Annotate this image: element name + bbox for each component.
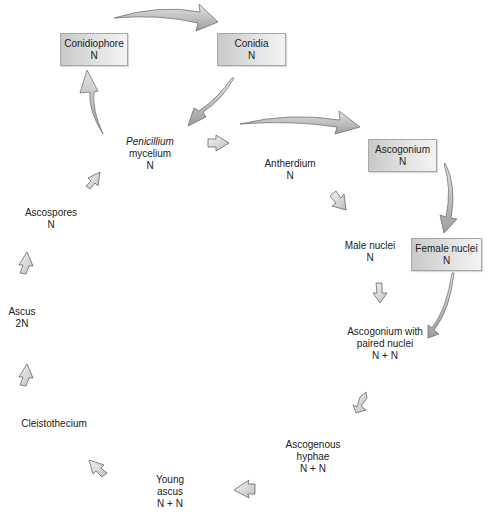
arrow-ascospores-to-mycelium bbox=[86, 172, 100, 189]
node-ploidy: N bbox=[218, 50, 285, 62]
node-ascogonium: Ascogonium N bbox=[368, 139, 437, 172]
arrow-conidia-to-mycelium bbox=[188, 78, 234, 126]
node-female-nuclei: Female nuclei N bbox=[411, 238, 482, 271]
node-ploidy: N bbox=[18, 219, 84, 231]
node-ascogonium-paired-nuclei: Ascogonium with paired nuclei N + N bbox=[340, 326, 430, 362]
node-ploidy: N bbox=[337, 252, 403, 264]
node-name-line2: hyphae bbox=[278, 451, 348, 463]
node-name-line1: Young bbox=[145, 474, 195, 486]
node-name: Antherdium bbox=[255, 158, 325, 170]
node-ascogenous-hyphae: Ascogenous hyphae N + N bbox=[278, 439, 348, 475]
node-ploidy: N + N bbox=[278, 463, 348, 475]
arrow-mycelium-to-conidiophore bbox=[80, 70, 103, 134]
arrow-young-ascus-to-cleistothecium bbox=[89, 460, 107, 477]
arrow-cleistothecium-to-ascus bbox=[19, 364, 33, 386]
node-name-line1: Ascogonium with bbox=[340, 326, 430, 338]
node-conidiophore: Conidiophore N bbox=[60, 33, 128, 66]
node-name: Ascus bbox=[4, 306, 40, 318]
arrow-ascogonium-to-female bbox=[440, 163, 457, 233]
node-name-line1: Ascogenous bbox=[278, 439, 348, 451]
arrow-ascogenous-to-young-ascus bbox=[234, 480, 255, 498]
arrow-conidiophore-to-conidia bbox=[114, 4, 218, 31]
arrow-paired-to-ascogenous bbox=[353, 392, 367, 413]
node-name: Ascogonium bbox=[369, 144, 436, 156]
node-ploidy: N bbox=[108, 160, 192, 172]
arrow-mycelium-to-antherdium bbox=[208, 135, 229, 151]
node-ploidy: N + N bbox=[145, 498, 195, 510]
node-ploidy: N bbox=[255, 170, 325, 182]
arrow-male-to-paired bbox=[373, 283, 387, 303]
node-name: Conidiophore bbox=[61, 38, 127, 50]
node-antherdium: Antherdium N bbox=[255, 158, 325, 182]
node-name: Cleistothecium bbox=[14, 418, 94, 430]
node-cleistothecium: Cleistothecium bbox=[14, 418, 94, 430]
node-ascospores: Ascospores N bbox=[18, 207, 84, 231]
node-ploidy: N bbox=[412, 255, 481, 267]
node-young-ascus: Young ascus N + N bbox=[145, 474, 195, 510]
node-ascus: Ascus 2N bbox=[4, 306, 40, 330]
node-ploidy: N bbox=[369, 156, 436, 168]
node-name-line2: paired nuclei bbox=[340, 338, 430, 350]
node-ploidy: 2N bbox=[4, 318, 40, 330]
arrow-antherdium-to-male bbox=[330, 191, 346, 210]
arrow-to-ascogonium bbox=[240, 111, 360, 134]
node-ploidy: N + N bbox=[340, 350, 430, 362]
node-name: Female nuclei bbox=[412, 243, 481, 255]
node-conidia: Conidia N bbox=[217, 33, 286, 66]
node-ploidy: N bbox=[61, 50, 127, 62]
node-name: Conidia bbox=[218, 38, 285, 50]
node-male-nuclei: Male nuclei N bbox=[337, 240, 403, 264]
node-name: Ascospores bbox=[18, 207, 84, 219]
arrow-female-to-paired bbox=[428, 273, 454, 338]
node-name: mycelium bbox=[108, 148, 192, 160]
node-name-italic: Penicillium bbox=[108, 136, 192, 148]
node-mycelium: Penicillium mycelium N bbox=[108, 136, 192, 172]
arrow-ascus-to-ascospores bbox=[19, 252, 33, 274]
node-name: Male nuclei bbox=[337, 240, 403, 252]
node-name-line2: ascus bbox=[145, 486, 195, 498]
